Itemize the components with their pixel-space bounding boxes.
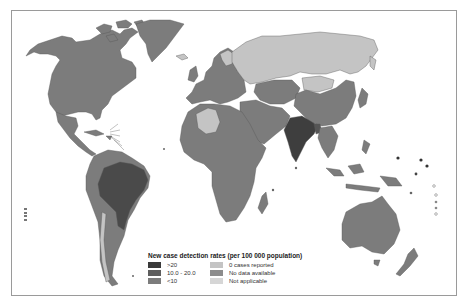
legend-item-lt10: <10 — [148, 278, 204, 284]
swatch-gt20 — [148, 262, 161, 268]
legend-label: 10.0 - 20.0 — [167, 270, 196, 276]
legend-label: Not applicable — [229, 278, 267, 284]
tasmania — [374, 260, 380, 266]
legend-item-no-data: No data available — [210, 270, 310, 276]
india — [284, 116, 318, 162]
central-asia — [254, 80, 300, 104]
legend-label: 0 cases reported — [229, 262, 274, 268]
madagascar — [258, 192, 268, 214]
legend: New case detection rates (per 100 000 po… — [148, 252, 348, 284]
kamchatka — [370, 56, 376, 70]
uk — [188, 66, 198, 82]
swatch-no-data — [210, 270, 223, 276]
caribbean-callout — [110, 124, 124, 150]
legend-item-gt20: >20 — [148, 262, 204, 268]
new-zealand — [396, 248, 418, 276]
legend-label: No data available — [229, 270, 275, 276]
swatch-10-20 — [148, 270, 161, 276]
australia — [342, 196, 400, 254]
mongolia — [302, 76, 334, 92]
legend-item-zero: 0 cases reported — [210, 262, 310, 268]
southeast-asia — [318, 126, 338, 158]
russia — [232, 32, 378, 84]
legend-label: <10 — [167, 278, 177, 284]
philippines — [362, 140, 370, 154]
legend-item-not-applicable: Not applicable — [210, 278, 310, 284]
iceland — [176, 54, 188, 60]
legend-item-10-20: 10.0 - 20.0 — [148, 270, 204, 276]
north-america — [26, 28, 138, 120]
caribbean — [84, 130, 112, 140]
legend-title: New case detection rates (per 100 000 po… — [148, 252, 348, 259]
indonesia — [326, 164, 402, 192]
small-island-markers — [24, 208, 28, 222]
swatch-lt10 — [148, 278, 161, 284]
swatch-not-applicable — [210, 278, 223, 284]
japan — [358, 88, 368, 108]
legend-label: >20 — [167, 262, 177, 268]
swatch-zero — [210, 262, 223, 268]
